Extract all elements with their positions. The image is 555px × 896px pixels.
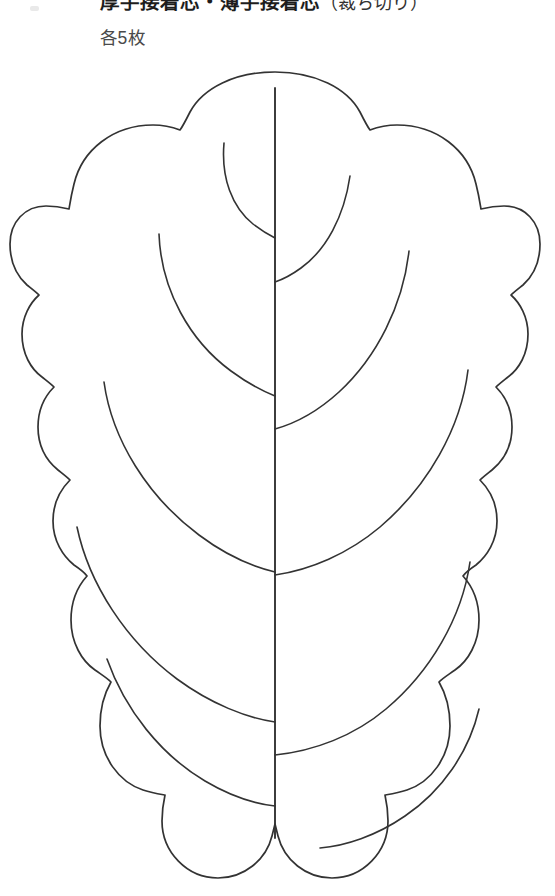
pattern-sheet: 厚手接着芯・薄手接着芯（裁ち切り） 各5枚 <box>0 0 555 896</box>
leaf-pattern-drawing <box>0 0 555 896</box>
